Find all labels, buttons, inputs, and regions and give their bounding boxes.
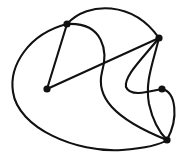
graph-vertex-v3 — [43, 85, 50, 92]
graph-edge-e2 — [47, 24, 67, 89]
graph-vertex-v5 — [163, 136, 170, 143]
graph-vertex-v2 — [155, 34, 162, 41]
graph-vertex-v1 — [63, 20, 70, 27]
graph-edge-e1 — [67, 8, 159, 38]
graph-edge-e7 — [162, 89, 174, 140]
graph-vertex-v4 — [158, 85, 165, 92]
edge-layer — [12, 8, 174, 150]
graph-figure — [0, 0, 182, 163]
graph-canvas — [0, 0, 182, 163]
graph-edge-e5 — [12, 24, 167, 150]
